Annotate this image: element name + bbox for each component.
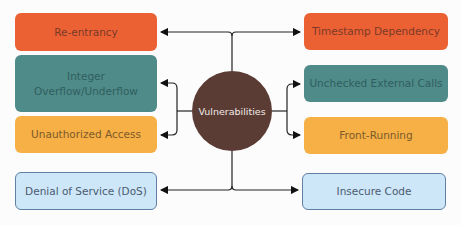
node-label: Unauthorized Access [31,127,141,141]
node-denial-of-service: Denial of Service (DoS) [15,172,157,210]
node-label-line1: Integer [67,69,105,83]
node-label: Denial of Service (DoS) [25,184,147,198]
node-re-entrancy: Re-entrancy [15,13,157,51]
node-label: Unchecked External Calls [309,76,442,90]
node-front-running: Front-Running [304,117,448,154]
node-unchecked-external-calls: Unchecked External Calls [304,65,448,102]
node-unauthorized-access: Unauthorized Access [15,116,157,153]
node-integer-overflow: Integer Overflow/Underflow [15,55,157,112]
node-label-line2: Overflow/Underflow [34,84,138,98]
node-label: Timestamp Dependency [312,24,440,38]
node-label: Re-entrancy [54,25,118,39]
hub-vulnerabilities: Vulnerabilities [192,71,272,151]
hub-label: Vulnerabilities [198,106,265,117]
node-label: Insecure Code [337,184,412,198]
node-timestamp-dependency: Timestamp Dependency [304,13,448,50]
node-insecure-code: Insecure Code [302,173,446,210]
node-label: Front-Running [339,128,412,142]
